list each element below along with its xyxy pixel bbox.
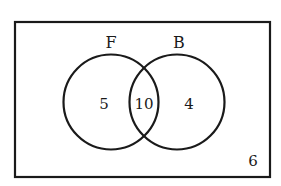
outside-count: 6 xyxy=(248,152,258,170)
set-b-label: B xyxy=(173,33,185,52)
set-f-label: F xyxy=(105,33,116,52)
f-only-count: 5 xyxy=(99,95,109,113)
b-only-count: 4 xyxy=(184,95,194,113)
intersection-count: 10 xyxy=(134,95,153,113)
venn-diagram: F B 5 10 4 6 xyxy=(0,0,281,186)
